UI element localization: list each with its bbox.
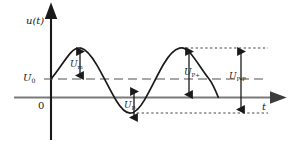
x-axis-label: t xyxy=(262,102,266,112)
origin-label: 0 xyxy=(38,101,44,111)
dc-offset-label: U0 xyxy=(23,73,35,83)
peak-to-peak-label: UP-P xyxy=(229,72,246,81)
amplitude-label: Um xyxy=(70,60,83,69)
waveform-figure: u(t) t 0 U0 Um UP- UP+ UP-P xyxy=(0,0,289,151)
positive-peak-label: UP+ xyxy=(184,68,200,77)
y-axis-label: u(t) xyxy=(26,16,44,26)
negative-peak-label: UP- xyxy=(124,101,137,110)
